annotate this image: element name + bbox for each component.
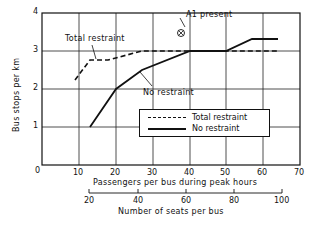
x-tick: 10 <box>73 168 83 177</box>
y-axis-label: Bus stops per km <box>12 58 21 132</box>
x2-tick: 20 <box>84 196 94 205</box>
secondary-x-axis-label: Number of seats per bus <box>118 207 224 216</box>
legend-item-no-restraint: No restraint <box>148 124 239 133</box>
legend-label: Total restraint <box>192 113 247 122</box>
x-axis-label: Passengers per bus during peak hours <box>93 178 257 187</box>
annotation-a1-present: A1 present <box>186 10 233 19</box>
y-tick: 2 <box>33 83 38 92</box>
x-tick: 70 <box>294 168 304 177</box>
x-tick: 50 <box>220 168 230 177</box>
x-tick: 40 <box>184 168 194 177</box>
x2-tick: 80 <box>229 196 239 205</box>
x2-tick: 100 <box>274 196 289 205</box>
origin-label: 0 <box>35 166 40 175</box>
legend: Total restraint No restraint <box>139 109 270 137</box>
a1-present-marker <box>178 30 185 37</box>
x-tick: 60 <box>257 168 267 177</box>
y-tick: 1 <box>33 121 38 130</box>
y-tick: 3 <box>33 45 38 54</box>
series-total-restraint <box>75 51 278 80</box>
annotation-no-restraint: No restraint <box>143 88 194 97</box>
x-tick: 20 <box>110 168 120 177</box>
y-tick: 4 <box>33 7 38 16</box>
x2-tick: 40 <box>133 196 143 205</box>
annotation-total-restraint: Total restraint <box>65 34 125 43</box>
dashed-line-swatch <box>148 117 186 118</box>
solid-line-swatch <box>148 128 186 130</box>
x2-tick: 60 <box>181 196 191 205</box>
x-tick: 30 <box>147 168 157 177</box>
legend-label: No restraint <box>192 124 239 133</box>
legend-item-total-restraint: Total restraint <box>148 113 247 122</box>
secondary-x-axis <box>89 189 282 193</box>
